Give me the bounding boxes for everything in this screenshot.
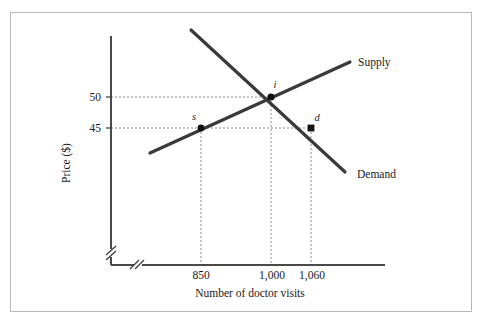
guide-lines (111, 97, 311, 264)
curves (150, 30, 350, 172)
data-point-d[interactable] (308, 125, 315, 132)
y-tick-label-45: 45 (90, 122, 102, 134)
demand-curve-label: Demand (357, 168, 396, 180)
demand-curve[interactable] (191, 30, 345, 172)
point-label-d: d (314, 112, 320, 123)
supply-curve[interactable] (150, 62, 350, 153)
y-axis-title: Price ($) (60, 143, 73, 183)
x-tick-label-1060: 1,060 (299, 269, 325, 282)
y-tick-label-50: 50 (90, 91, 102, 103)
point-label-i: i (274, 79, 277, 90)
x-tick-label-1000: 1,000 (259, 269, 285, 282)
point-label-s: s (192, 111, 196, 122)
supply-curve-label: Supply (358, 56, 391, 69)
x-axis-title: Number of doctor visits (195, 287, 305, 299)
data-point-s[interactable] (198, 125, 205, 132)
x-tick-label-850: 850 (192, 269, 210, 281)
figure-stage: s i d Supply Demand 50 45 850 1,000 1,06… (0, 0, 494, 328)
data-point-i[interactable] (267, 93, 274, 100)
supply-demand-chart: s i d Supply Demand 50 45 850 1,000 1,06… (0, 0, 494, 328)
